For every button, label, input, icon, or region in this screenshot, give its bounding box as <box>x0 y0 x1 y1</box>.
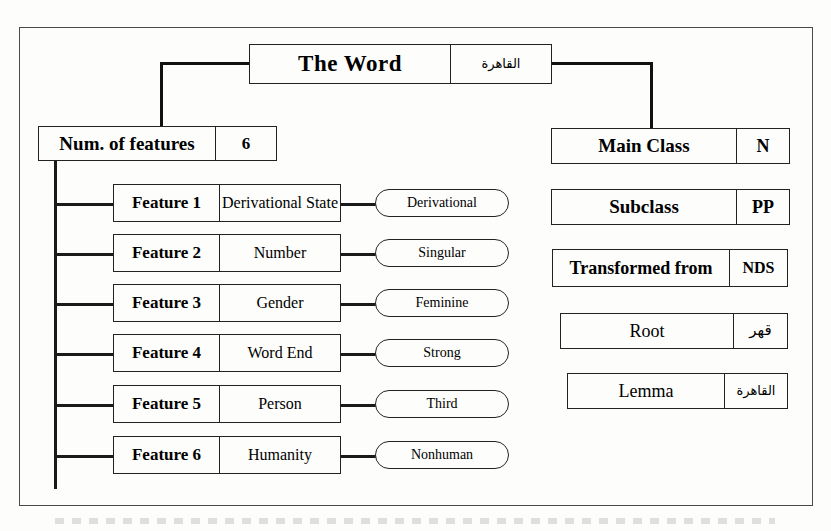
word-box-value: القاهرة <box>450 45 551 83</box>
connector-word-right-horizontal <box>549 62 653 65</box>
connector-word-left-vertical <box>160 62 163 128</box>
word-box[interactable]: The Word القاهرة <box>249 44 552 84</box>
feature-row[interactable]: Feature 4 Word End <box>113 334 341 372</box>
feature-name: Person <box>219 386 340 422</box>
feature-name: Derivational State <box>219 185 340 221</box>
root-value: قهر <box>733 314 787 348</box>
caption-trace <box>55 518 775 524</box>
connector-value-feature-4 <box>340 353 377 356</box>
feature-row[interactable]: Feature 1 Derivational State <box>113 184 341 222</box>
lemma-value: القاهرة <box>724 374 787 408</box>
connector-branch-feature-3 <box>54 303 114 306</box>
root-box[interactable]: Root قهر <box>560 313 788 349</box>
connector-feature-trunk <box>54 159 57 489</box>
feature-value-pill[interactable]: Derivational <box>375 189 509 217</box>
feature-name: Humanity <box>219 437 340 473</box>
lemma-label: Lemma <box>568 374 724 408</box>
feature-row[interactable]: Feature 6 Humanity <box>113 436 341 474</box>
word-box-label: The Word <box>250 45 450 83</box>
feature-value-pill[interactable]: Strong <box>375 339 509 367</box>
connector-value-feature-5 <box>340 404 377 407</box>
connector-value-feature-3 <box>340 303 377 306</box>
num-of-features-box[interactable]: Num. of features 6 <box>38 126 277 161</box>
root-label: Root <box>561 314 733 348</box>
connector-word-right-vertical <box>650 62 653 130</box>
num-of-features-label: Num. of features <box>39 127 215 160</box>
subclass-box[interactable]: Subclass PP <box>551 189 790 225</box>
transformed-from-label: Transformed from <box>553 250 729 286</box>
feature-label: Feature 5 <box>114 386 219 422</box>
connector-branch-feature-5 <box>54 404 114 407</box>
feature-value-pill[interactable]: Feminine <box>375 289 509 317</box>
feature-label: Feature 1 <box>114 185 219 221</box>
connector-branch-feature-4 <box>54 353 114 356</box>
subclass-value: PP <box>736 190 789 224</box>
connector-word-left-horizontal <box>160 62 252 65</box>
feature-label: Feature 4 <box>114 335 219 371</box>
feature-label: Feature 3 <box>114 285 219 321</box>
connector-branch-feature-6 <box>54 455 114 458</box>
feature-value-pill[interactable]: Singular <box>375 239 509 267</box>
lemma-box[interactable]: Lemma القاهرة <box>567 373 788 409</box>
feature-name: Gender <box>219 285 340 321</box>
connector-branch-feature-1 <box>54 203 114 206</box>
feature-name: Number <box>219 235 340 271</box>
feature-value-pill[interactable]: Nonhuman <box>375 441 509 469</box>
feature-row[interactable]: Feature 2 Number <box>113 234 341 272</box>
feature-row[interactable]: Feature 3 Gender <box>113 284 341 322</box>
subclass-label: Subclass <box>552 190 736 224</box>
main-class-box[interactable]: Main Class N <box>551 128 790 164</box>
connector-value-feature-1 <box>340 203 377 206</box>
num-of-features-value: 6 <box>215 127 276 160</box>
feature-row[interactable]: Feature 5 Person <box>113 385 341 423</box>
feature-label: Feature 2 <box>114 235 219 271</box>
feature-value-pill[interactable]: Third <box>375 390 509 418</box>
connector-value-feature-2 <box>340 253 377 256</box>
feature-name: Word End <box>219 335 340 371</box>
connector-value-feature-6 <box>340 455 377 458</box>
main-class-value: N <box>736 129 789 163</box>
transformed-from-value: NDS <box>729 250 787 286</box>
main-class-label: Main Class <box>552 129 736 163</box>
feature-label: Feature 6 <box>114 437 219 473</box>
diagram-canvas: The Word القاهرة Num. of features 6 Feat… <box>0 0 831 531</box>
transformed-from-box[interactable]: Transformed from NDS <box>552 249 788 287</box>
connector-branch-feature-2 <box>54 253 114 256</box>
